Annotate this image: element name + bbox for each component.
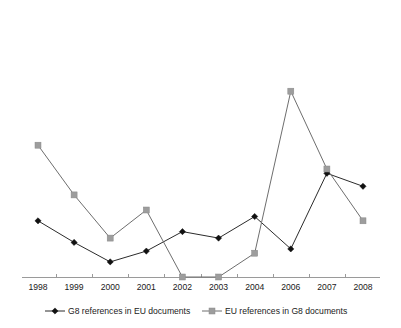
legend-item-2[interactable]: EU references in G8 documents [202,306,347,316]
series-line-1 [38,173,363,262]
x-tick-label-2007: 2007 [317,282,336,292]
line-chart: 1998199920002001200220032004200620072008… [0,0,401,328]
x-tick-label-2000: 2000 [101,282,120,292]
data-point-eu-references-in-g8-documents-1998 [35,142,41,148]
data-point-eu-references-in-g8-documents-1999 [71,192,77,198]
series-polylines [38,91,363,277]
legend-item-1[interactable]: G8 references in EU documents [45,306,190,316]
x-tick-label-2008: 2008 [353,282,372,292]
series-markers [35,88,366,280]
chart-canvas: 1998199920002001200220032004200620072008… [0,0,401,328]
x-tick-label-1998: 1998 [28,282,47,292]
data-point-g8-references-in-eu-documents-2001 [143,248,149,254]
data-point-eu-references-in-g8-documents-2000 [107,235,113,241]
x-tick-label-2001: 2001 [137,282,156,292]
data-point-eu-references-in-g8-documents-2004 [252,250,258,256]
data-point-eu-references-in-g8-documents-2003 [216,274,222,280]
data-point-eu-references-in-g8-documents-2006 [288,88,294,94]
legend-marker-icon [209,308,215,314]
data-point-g8-references-in-eu-documents-2003 [215,235,221,241]
chart-legend: G8 references in EU documentsEU referenc… [45,306,347,316]
data-point-eu-references-in-g8-documents-2002 [179,274,185,280]
data-point-eu-references-in-g8-documents-2001 [143,207,149,213]
x-tick-label-2004: 2004 [245,282,264,292]
x-tick-label-1999: 1999 [65,282,84,292]
data-point-g8-references-in-eu-documents-2008 [360,183,366,189]
data-point-g8-references-in-eu-documents-1999 [71,239,77,245]
data-point-eu-references-in-g8-documents-2008 [360,218,366,224]
data-point-eu-references-in-g8-documents-2007 [324,166,330,172]
data-point-g8-references-in-eu-documents-1998 [35,218,41,224]
legend-label-2: EU references in G8 documents [225,306,347,316]
legend-label-1: G8 references in EU documents [68,306,190,316]
x-tick-label-2003: 2003 [209,282,228,292]
data-point-g8-references-in-eu-documents-2000 [107,259,113,265]
x-tick-label-2002: 2002 [173,282,192,292]
data-point-g8-references-in-eu-documents-2002 [179,229,185,235]
x-axis-tick-labels: 1998199920002001200220032004200620072008 [28,282,372,292]
x-tick-label-2006: 2006 [281,282,300,292]
legend-marker-icon [52,308,58,314]
